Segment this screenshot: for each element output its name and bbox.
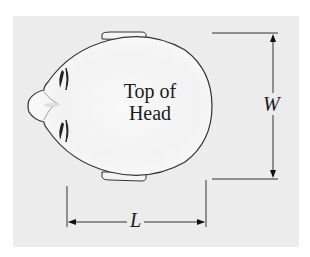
width-variable: W [260,93,283,115]
head-diagram [0,0,310,257]
length-variable: L [127,209,144,231]
center-label: Top of Head [108,80,192,124]
width-label: W [260,93,283,117]
center-label-line1: Top of [108,80,192,102]
length-label: L [127,209,144,233]
center-label-line2: Head [108,102,192,124]
